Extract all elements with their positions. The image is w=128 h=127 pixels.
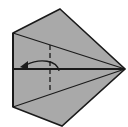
origami-diagram [0,0,128,127]
paper-shape [13,9,125,126]
